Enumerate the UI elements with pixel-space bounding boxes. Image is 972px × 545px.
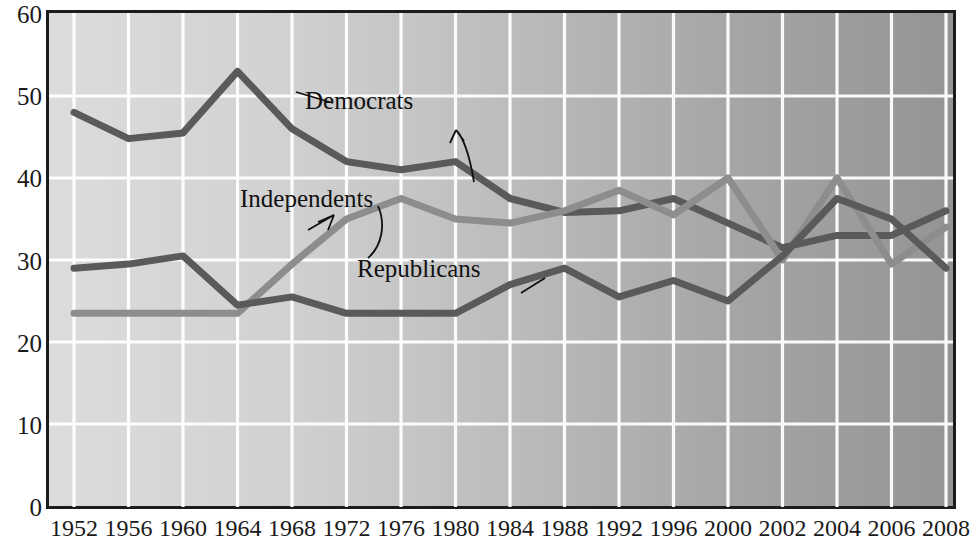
y-tick-10: 10 (0, 413, 42, 438)
x-tick-1972: 1972 (319, 516, 375, 540)
y-tick-0: 0 (0, 495, 42, 520)
x-tick-1984: 1984 (482, 516, 538, 540)
x-tick-1952: 1952 (46, 516, 102, 540)
x-tick-1960: 1960 (155, 516, 211, 540)
y-tick-20: 20 (0, 331, 42, 356)
x-tick-1980: 1980 (428, 516, 484, 540)
x-tick-2002: 2002 (755, 516, 811, 540)
y-tick-40: 40 (0, 166, 42, 191)
x-tick-1956: 1956 (101, 516, 157, 540)
plot-area (46, 10, 956, 510)
y-tick-30: 30 (0, 249, 42, 274)
series-label-republicans: Republicans (357, 256, 481, 281)
x-tick-1988: 1988 (537, 516, 593, 540)
party-identification-line-chart: 60 50 40 30 20 10 0 Democrats Independen… (0, 0, 972, 545)
x-tick-1996: 1996 (646, 516, 702, 540)
series-label-democrats: Democrats (305, 88, 413, 113)
x-tick-2000: 2000 (700, 516, 756, 540)
x-tick-2006: 2006 (864, 516, 920, 540)
x-tick-2008: 2008 (918, 516, 972, 540)
series-label-independents: Independents (240, 186, 373, 211)
x-tick-1968: 1968 (264, 516, 320, 540)
y-tick-60: 60 (0, 2, 42, 27)
x-tick-1992: 1992 (591, 516, 647, 540)
x-tick-1976: 1976 (373, 516, 429, 540)
y-tick-50: 50 (0, 84, 42, 109)
x-tick-1964: 1964 (210, 516, 266, 540)
x-tick-2004: 2004 (809, 516, 865, 540)
